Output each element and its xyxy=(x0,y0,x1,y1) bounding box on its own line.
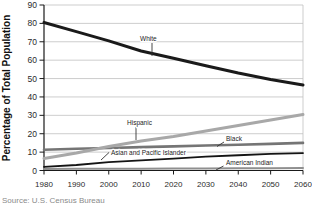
x-tick-label: 2040 xyxy=(229,180,247,189)
y-tick-label: 20 xyxy=(28,129,38,139)
x-tick-label: 2030 xyxy=(197,180,215,189)
x-tick-label: 1990 xyxy=(67,180,85,189)
series-label-hispanic: Hispanic xyxy=(127,119,153,127)
x-tick-label: 2060 xyxy=(294,180,312,189)
y-axis-title: Percentage of Total Population xyxy=(1,15,12,162)
y-tick-label: 70 xyxy=(28,37,38,47)
y-tick-label: 80 xyxy=(28,18,38,28)
y-tick-label: 50 xyxy=(28,74,38,84)
series-label-american-indian: American Indian xyxy=(226,159,273,166)
label-leader-asian-and-pacific-islander xyxy=(101,153,109,161)
series-label-white: White xyxy=(140,35,157,42)
x-tick-label: 2020 xyxy=(165,180,183,189)
x-tick-label: 1980 xyxy=(35,180,53,189)
x-tick-label: 2050 xyxy=(262,180,280,189)
y-tick-label: 0 xyxy=(32,166,37,176)
population-line-chart: 0102030405060708090198019902000201020202… xyxy=(0,0,312,203)
series-line-american-indian xyxy=(44,168,303,169)
source-note: Source: U.S. Census Bureau xyxy=(2,196,105,203)
y-tick-label: 60 xyxy=(28,55,38,65)
y-tick-label: 40 xyxy=(28,92,38,102)
series-line-white xyxy=(44,22,303,85)
y-tick-label: 90 xyxy=(28,0,38,10)
y-tick-label: 30 xyxy=(28,110,38,120)
y-tick-label: 10 xyxy=(28,147,38,157)
x-tick-label: 2010 xyxy=(132,180,150,189)
series-label-black: Black xyxy=(226,135,243,142)
x-tick-label: 2000 xyxy=(100,180,118,189)
series-label-asian-and-pacific-islander: Asian and Pacific Islander xyxy=(111,149,187,156)
population-chart-figure: 0102030405060708090198019902000201020202… xyxy=(0,0,312,203)
